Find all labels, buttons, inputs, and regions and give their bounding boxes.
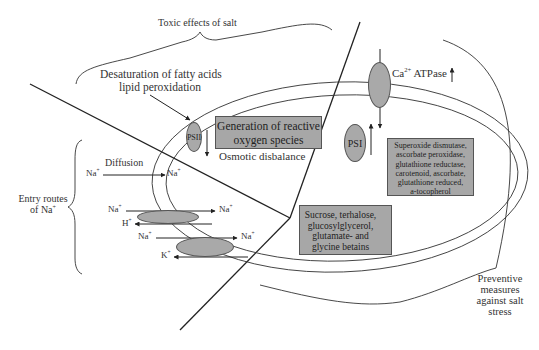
desaturation-line1: Desaturation of fatty acids [100, 68, 220, 81]
psi-oval: PSI [344, 124, 366, 162]
antioxidants-box: Superoxide dismutase, ascorbate peroxida… [387, 138, 474, 196]
ion-na-k-out: Na+ [138, 232, 152, 242]
preventive-measures-label: Preventive measures against salt stress [470, 273, 530, 317]
ion-na-diffusion-out: Na+ [86, 169, 100, 179]
desaturation-arrow [150, 95, 190, 120]
ion-na-antiporter-in: Na+ [219, 205, 233, 215]
psi-label: PSI [348, 138, 362, 149]
toxic-effects-label: Toxic effects of salt [158, 17, 237, 28]
psii-label: PSII [187, 133, 201, 142]
ca-atpase-oval [368, 62, 391, 108]
psii-oval: PSII [186, 122, 202, 152]
ion-k: K+ [161, 251, 171, 261]
osmolytes-box: Sucrose, terhalose, glucosylglycerol, gl… [299, 205, 392, 255]
ion-h: H+ [122, 219, 132, 229]
na-k-transporter-oval [176, 237, 234, 257]
na-h-antiporter-oval [137, 210, 199, 224]
divider-line-main [180, 218, 290, 330]
ca-atpase-label: Ca2+ ATPase [392, 67, 447, 79]
ros-box: Generation of reactive oxygen species [215, 116, 322, 149]
ion-na-k-in: Na+ [241, 232, 255, 242]
ros-line1: Generation of reactive [216, 119, 321, 133]
ion-na-diffusion-in: Na+ [167, 169, 181, 179]
desaturation-label: Desaturation of fatty acids lipid peroxi… [100, 68, 220, 93]
osmotic-disbalance-label: Osmotic disbalance [219, 150, 305, 162]
diffusion-label: Diffusion [105, 157, 143, 168]
ion-na-antiporter-out: Na+ [108, 205, 122, 215]
entry-routes-label: Entry routes of Na+ [14, 193, 72, 215]
ros-line2: oxygen species [216, 133, 321, 147]
desaturation-line2: lipid peroxidation [100, 81, 220, 94]
